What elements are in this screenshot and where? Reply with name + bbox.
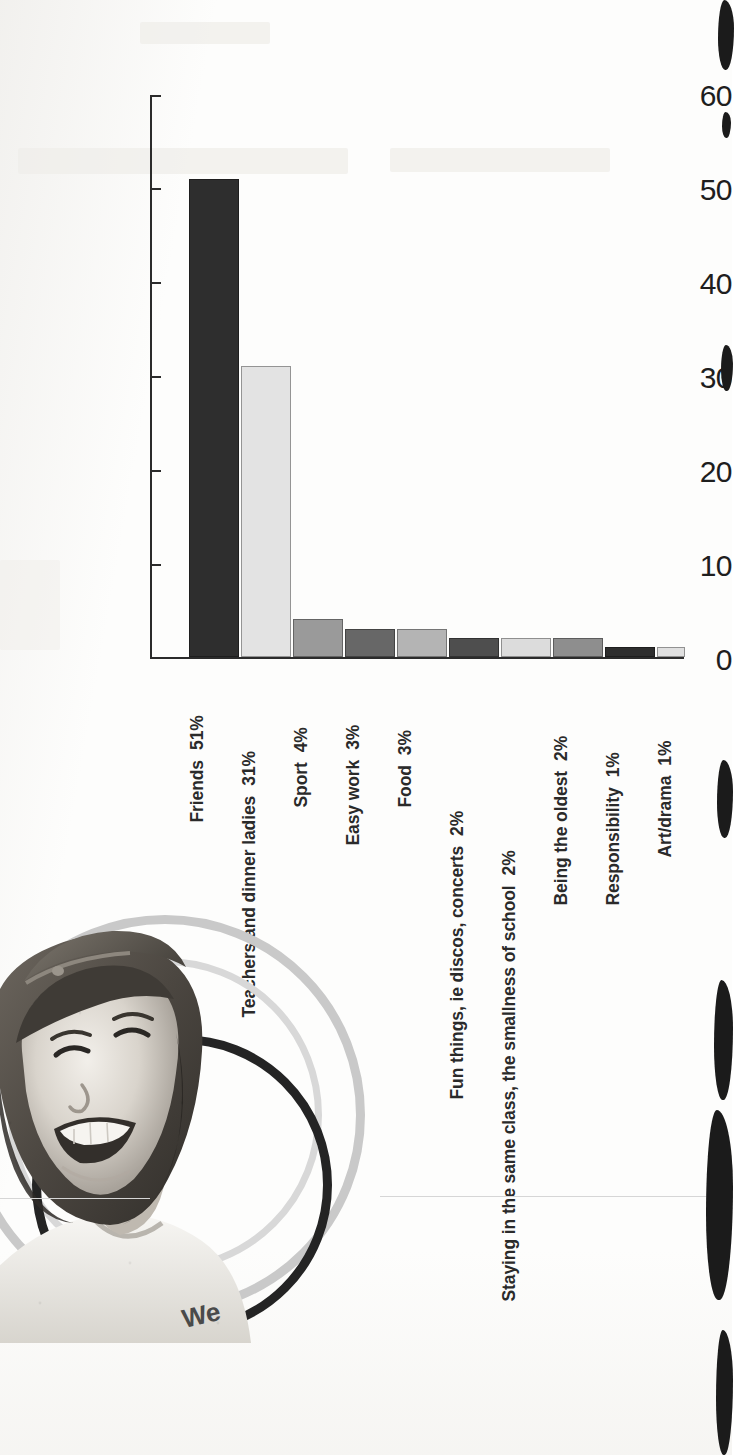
- scan-edge-artifact: [717, 760, 733, 838]
- y-tick-40: [150, 282, 161, 284]
- x-axis-label-text: Easy work: [343, 760, 363, 846]
- x-axis-label-text: Staying in the same class, the smallness…: [499, 885, 519, 1301]
- x-axis-value-label: 3%: [343, 725, 363, 750]
- smiling-girl-photo: [0, 923, 270, 1343]
- x-axis-label-same-class: Staying in the same class, the smallness…: [501, 850, 519, 1301]
- y-tick-10: [150, 564, 161, 566]
- x-axis-value-label: 2%: [499, 850, 519, 875]
- x-axis-label-art-drama: Art/drama1%: [657, 741, 675, 858]
- x-axis-label-text: Responsibility: [603, 787, 623, 905]
- x-axis-label-text: Sport: [291, 762, 311, 807]
- x-axis-label-text: Food: [395, 765, 415, 807]
- x-axis-label-friends: Friends51%: [189, 715, 207, 822]
- x-axis-label-easy-work: Easy work3%: [345, 725, 363, 846]
- x-axis-label-food: Food3%: [397, 730, 415, 807]
- x-axis-label-text: Fun things, ie discos, concerts: [447, 846, 467, 1100]
- y-tick-50: [150, 188, 161, 190]
- x-axis-value-label: 2%: [447, 811, 467, 836]
- x-axis-value-label: 31%: [239, 751, 259, 786]
- bar-sport: [293, 619, 343, 657]
- y-axis-tick-label: 20: [605, 457, 732, 487]
- y-axis-tick-label: 10: [605, 551, 732, 581]
- x-axis-line: [150, 657, 684, 659]
- bar-responsibility: [605, 647, 655, 657]
- bar-fun-things: [449, 638, 499, 657]
- x-axis-value-label: 1%: [603, 752, 623, 777]
- y-tick-30: [150, 376, 161, 378]
- x-axis-value-label: 3%: [395, 730, 415, 755]
- x-axis-label-fun-things: Fun things, ie discos, concerts2%: [449, 811, 467, 1100]
- bar-food: [397, 629, 447, 657]
- bar-same-class: [501, 638, 551, 657]
- page-rule-left: [0, 1198, 150, 1199]
- bar-being-oldest: [553, 638, 603, 657]
- scan-edge-artifact: [716, 1330, 733, 1455]
- y-tick-60: [150, 95, 161, 97]
- x-axis-label-text: Friends: [187, 760, 207, 823]
- bar-easy-work: [345, 629, 395, 657]
- x-axis-label-sport: Sport4%: [293, 727, 311, 807]
- y-axis-tick-label: 60: [605, 81, 732, 111]
- y-axis-tick-label: 40: [605, 269, 732, 299]
- x-axis-value-label: 51%: [187, 715, 207, 750]
- x-axis-label-responsibility: Responsibility1%: [605, 752, 623, 905]
- photo-collage: We: [0, 905, 390, 1455]
- scan-edge-artifact: [706, 1110, 733, 1300]
- x-axis-label-being-oldest: Being the oldest2%: [553, 736, 571, 906]
- bar-chart: 60 50 40 30 20 10 0: [0, 0, 732, 700]
- scan-edge-artifact: [714, 980, 733, 1100]
- y-tick-20: [150, 470, 161, 472]
- x-axis-label-text: Art/drama: [655, 776, 675, 858]
- x-axis-value-label: 4%: [291, 727, 311, 752]
- x-axis-label-text: Being the oldest: [551, 771, 571, 906]
- x-axis-value-label: 2%: [551, 736, 571, 761]
- x-axis-value-label: 1%: [655, 741, 675, 766]
- bar-art-drama: [657, 647, 685, 657]
- page-rule-right: [380, 1196, 732, 1197]
- bar-friends: [189, 179, 239, 657]
- bar-teachers: [241, 366, 291, 657]
- y-axis-tick-label: 50: [605, 175, 732, 205]
- y-axis-tick-label: 30: [605, 363, 732, 393]
